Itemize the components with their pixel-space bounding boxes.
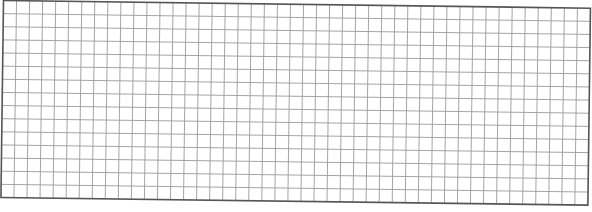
- grid-vertical-line: [249, 4, 252, 201]
- grid-vertical-line: [457, 6, 460, 203]
- grid-vertical-line: [105, 2, 108, 199]
- grid-vertical-line: [170, 3, 173, 200]
- grid-horizontal-line: [3, 53, 590, 61]
- grid-vertical-line: [575, 8, 578, 205]
- grid-vertical-line: [66, 1, 69, 198]
- grid-vertical-line: [79, 2, 82, 199]
- grid-vertical-line: [366, 5, 369, 202]
- grid-horizontal-line: [3, 66, 590, 74]
- grid-vertical-line: [418, 6, 421, 203]
- grid-horizontal-line: [3, 14, 590, 22]
- grid-vertical-line: [92, 2, 95, 199]
- grid-vertical-line: [262, 4, 265, 201]
- grid-vertical-line: [53, 1, 56, 198]
- grid-vertical-line: [497, 7, 500, 204]
- grid-vertical-line: [14, 1, 17, 198]
- grid-horizontal-line: [2, 145, 589, 153]
- grid-vertical-line: [536, 8, 539, 205]
- grid-vertical-line: [314, 5, 317, 202]
- grid-vertical-line: [275, 4, 278, 201]
- grid-vertical-line: [144, 2, 147, 199]
- grid-vertical-line: [562, 8, 565, 205]
- grid-horizontal-line: [3, 40, 590, 48]
- grid-canvas: [0, 0, 592, 212]
- grid-vertical-line: [431, 6, 434, 203]
- grid-vertical-line: [288, 4, 291, 201]
- grid-horizontal-line: [3, 27, 590, 35]
- grid-vertical-line: [210, 3, 213, 200]
- grid-horizontal-line: [2, 79, 589, 87]
- grid-vertical-line: [197, 3, 200, 200]
- grid-vertical-line: [236, 4, 239, 201]
- grid-vertical-line: [470, 7, 473, 204]
- grid-horizontal-line: [2, 92, 589, 100]
- grid-vertical-line: [223, 3, 226, 200]
- grid-vertical-line: [340, 5, 343, 202]
- grid-vertical-line: [444, 6, 447, 203]
- grid-horizontal-line: [1, 158, 588, 166]
- grid-vertical-line: [327, 5, 330, 202]
- grid-vertical-line: [510, 7, 513, 204]
- grid-horizontal-line: [2, 106, 589, 114]
- grid-horizontal-line: [2, 132, 589, 140]
- grid-vertical-line: [157, 3, 160, 200]
- grid-vertical-line: [40, 1, 43, 198]
- grid-vertical-line: [484, 7, 487, 204]
- grid-vertical-line: [549, 8, 552, 205]
- grid-vertical-line: [118, 2, 121, 199]
- graph-paper-grid: [0, 0, 592, 212]
- grid-vertical-line: [27, 1, 30, 198]
- grid-vertical-line: [301, 4, 304, 201]
- grid-vertical-line: [523, 7, 526, 204]
- grid-vertical-line: [379, 5, 382, 202]
- grid-vertical-line: [353, 5, 356, 202]
- grid-vertical-line: [392, 6, 395, 203]
- grid-vertical-line: [184, 3, 187, 200]
- grid-vertical-line: [405, 6, 408, 203]
- grid-horizontal-line: [1, 184, 588, 192]
- grid-vertical-line: [131, 2, 134, 199]
- grid-horizontal-line: [1, 171, 588, 179]
- grid-border: [1, 1, 591, 206]
- grid-lines: [1, 1, 591, 206]
- grid-horizontal-line: [2, 119, 589, 127]
